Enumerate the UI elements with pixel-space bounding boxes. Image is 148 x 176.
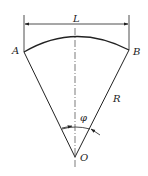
label-O: O xyxy=(80,152,88,163)
diagram-canvas: L φ A B R O xyxy=(0,0,148,176)
arc-AB xyxy=(24,36,129,52)
radius-line-left xyxy=(24,52,75,157)
angle-arrow-right xyxy=(91,129,100,135)
label-B: B xyxy=(132,46,140,57)
label-phi: φ xyxy=(80,112,87,123)
radius-line-right xyxy=(75,50,129,157)
label-A: A xyxy=(11,45,19,56)
label-L: L xyxy=(72,13,80,24)
label-R: R xyxy=(112,93,121,104)
sector-diagram: L φ A B R O xyxy=(0,0,148,176)
